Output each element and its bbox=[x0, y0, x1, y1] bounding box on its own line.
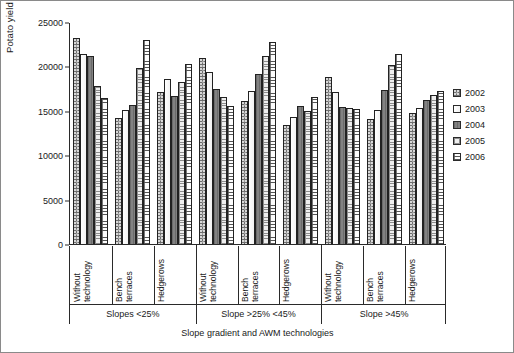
bar bbox=[297, 106, 304, 244]
x-category-label-line: Bench bbox=[114, 244, 124, 302]
bar bbox=[220, 97, 227, 244]
category-separator bbox=[154, 246, 155, 304]
category-separator bbox=[279, 246, 280, 304]
x-axis-title: Slope gradient and AWM technologies bbox=[69, 328, 446, 338]
legend-item[interactable]: 2006 bbox=[453, 149, 509, 165]
x-category-label: Withouttechnology bbox=[323, 244, 347, 302]
y-tick-label: 10000 bbox=[25, 151, 63, 161]
x-category-label-line: Bench bbox=[365, 244, 375, 302]
legend-swatch-icon bbox=[453, 121, 461, 129]
x-category-label-line: Hedgerows bbox=[156, 244, 166, 302]
bar bbox=[115, 118, 122, 244]
x-category-label-line: Without bbox=[198, 244, 208, 302]
bar bbox=[171, 96, 178, 244]
bar bbox=[143, 40, 150, 244]
legend: 20022003200420052006 bbox=[453, 85, 509, 165]
y-tick-label: 25000 bbox=[25, 18, 63, 28]
y-tick-label: 0 bbox=[25, 240, 63, 250]
bar bbox=[87, 56, 94, 244]
bar bbox=[423, 100, 430, 244]
bar bbox=[199, 58, 206, 244]
legend-label: 2004 bbox=[465, 120, 485, 130]
group-separator bbox=[196, 246, 197, 304]
x-category-label-line: Hedgerows bbox=[407, 244, 417, 302]
bar bbox=[416, 108, 423, 244]
bar bbox=[164, 79, 171, 244]
y-tick-label: 15000 bbox=[25, 107, 63, 117]
x-category-label-line: Hedgerows bbox=[281, 244, 291, 302]
bar bbox=[430, 95, 437, 244]
y-tick-label: 20000 bbox=[25, 62, 63, 72]
group-separator bbox=[321, 246, 322, 304]
bar bbox=[311, 97, 318, 244]
bar bbox=[388, 65, 395, 244]
bar bbox=[269, 42, 276, 244]
bar-cluster bbox=[70, 23, 112, 244]
x-category-label-line: technology bbox=[333, 244, 343, 302]
category-separator bbox=[405, 246, 406, 304]
x-category-label-line: terraces bbox=[375, 244, 385, 302]
bar bbox=[290, 117, 297, 244]
x-category-label-line: Bench bbox=[240, 244, 250, 302]
bar bbox=[339, 107, 346, 244]
category-separator bbox=[112, 246, 113, 304]
bar-cluster bbox=[112, 23, 154, 244]
bar bbox=[353, 109, 360, 244]
y-axis-ticks: 0500010000150002000025000 bbox=[25, 17, 63, 251]
y-tick-label: 5000 bbox=[25, 196, 63, 206]
legend-swatch-icon bbox=[453, 137, 461, 145]
x-category-label: Hedgerows bbox=[407, 244, 431, 302]
x-category-label-line: technology bbox=[82, 244, 92, 302]
legend-swatch-icon bbox=[453, 89, 461, 97]
bar bbox=[346, 108, 353, 244]
category-separator bbox=[238, 246, 239, 304]
legend-label: 2005 bbox=[465, 136, 485, 146]
bar bbox=[374, 110, 381, 244]
x-category-label: Benchterraces bbox=[365, 244, 389, 302]
bar-cluster bbox=[238, 23, 280, 244]
bar bbox=[80, 54, 87, 244]
bar-cluster bbox=[321, 23, 363, 244]
x-axis-group-band: Slopes <25%Slope >25% <45%Slope >45% bbox=[69, 304, 446, 324]
legend-swatch-icon bbox=[453, 153, 461, 161]
bar bbox=[206, 72, 213, 244]
x-category-label-line: technology bbox=[208, 244, 218, 302]
plot-area bbox=[69, 23, 446, 245]
x-category-label: Benchterraces bbox=[114, 244, 138, 302]
bar-cluster bbox=[196, 23, 238, 244]
bar bbox=[255, 74, 262, 244]
legend-item[interactable]: 2003 bbox=[453, 101, 509, 117]
legend-item[interactable]: 2002 bbox=[453, 85, 509, 101]
bar-cluster bbox=[154, 23, 196, 244]
bar bbox=[381, 90, 388, 244]
bar bbox=[227, 106, 234, 244]
x-category-label-line: Without bbox=[323, 244, 333, 302]
x-category-label-line: terraces bbox=[250, 244, 260, 302]
legend-item[interactable]: 2005 bbox=[453, 133, 509, 149]
bar-cluster bbox=[279, 23, 321, 244]
y-axis-title-text: Potato yield (kg ha bbox=[4, 0, 15, 53]
x-group-label: Slopes <25% bbox=[70, 309, 196, 319]
bar bbox=[129, 105, 136, 244]
bar bbox=[409, 113, 416, 244]
x-category-label: Benchterraces bbox=[240, 244, 264, 302]
x-category-label: Withouttechnology bbox=[198, 244, 222, 302]
bar bbox=[304, 111, 311, 244]
legend-swatch-icon bbox=[453, 105, 461, 113]
legend-label: 2003 bbox=[465, 104, 485, 114]
bar-cluster bbox=[405, 23, 447, 244]
legend-item[interactable]: 2004 bbox=[453, 117, 509, 133]
bar bbox=[367, 119, 374, 244]
bar bbox=[94, 86, 101, 244]
bar bbox=[157, 92, 164, 244]
bar bbox=[136, 68, 143, 244]
bar bbox=[262, 56, 269, 244]
legend-label: 2002 bbox=[465, 88, 485, 98]
bar bbox=[73, 38, 80, 244]
bar bbox=[185, 64, 192, 244]
category-separator bbox=[363, 246, 364, 304]
chart-figure: Potato yield (kg ha-1) 05000100001500020… bbox=[0, 0, 514, 353]
x-category-label-line: terraces bbox=[124, 244, 134, 302]
bar bbox=[437, 91, 444, 244]
x-group-label: Slope >45% bbox=[321, 309, 447, 319]
